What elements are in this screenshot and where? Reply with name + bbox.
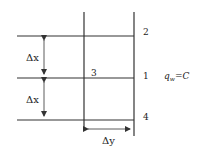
- grid-diagram: Δx Δx Δy 2 3 1 4 qw=C: [0, 0, 200, 148]
- dx-top-label: Δx: [26, 52, 39, 63]
- node-label-1: 1: [143, 71, 149, 81]
- boundary-condition-label: qw=C: [164, 71, 189, 82]
- node-label-2: 2: [143, 27, 149, 37]
- node-label-3: 3: [91, 68, 97, 78]
- dx-bottom-label: Δx: [26, 94, 39, 105]
- dy-label: Δy: [102, 135, 115, 146]
- node-label-4: 4: [143, 112, 149, 122]
- dimension-arrows: [44, 40, 130, 129]
- grid-lines: [17, 12, 134, 136]
- bc-relation: =C: [175, 71, 190, 81]
